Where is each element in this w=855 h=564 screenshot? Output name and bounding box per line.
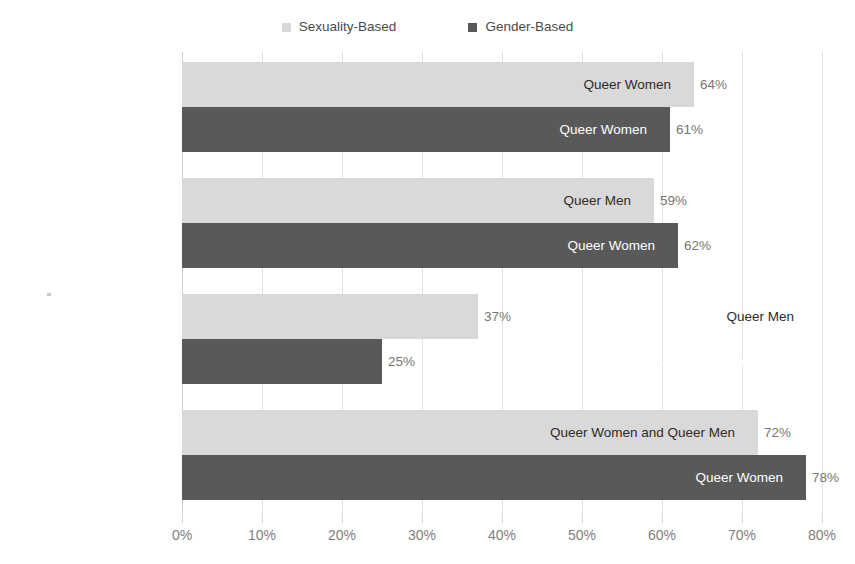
- x-tick-label: 10%: [248, 527, 276, 543]
- bar-row-any-dhv-gender: Queer Women 78%: [182, 455, 822, 500]
- legend-swatch-icon: [282, 23, 291, 32]
- x-tick-label: 70%: [728, 527, 756, 543]
- bar-point-label: Queer Women: [567, 223, 659, 268]
- bar-sexuality-violence[interactable]: [182, 294, 478, 339]
- x-tick-label: 30%: [408, 527, 436, 543]
- bar-value-label: 61%: [670, 107, 703, 152]
- bar-point-label: Queer Men: [563, 178, 635, 223]
- chart-legend: Sexuality-Based Gender-Based: [0, 14, 855, 40]
- x-tick-label: 20%: [328, 527, 356, 543]
- legend-label-gender-based: Gender-Based: [485, 20, 573, 34]
- legend-label-sexuality-based: Sexuality-Based: [299, 20, 397, 34]
- bar-point-label: Queer Men: [726, 294, 798, 339]
- bar-value-label: 72%: [758, 410, 791, 455]
- gridline-80: [822, 52, 823, 514]
- x-tick-mark: [822, 514, 823, 523]
- bar-chart: Sexuality-Based Gender-Based Discriminat…: [0, 0, 855, 564]
- bar-row-discrimination-gender: Queer Women 61%: [182, 107, 822, 152]
- x-tick-mark: [182, 514, 183, 523]
- bar-group-violence: Violence Queer Men 37% Bisexual Women an…: [182, 294, 822, 384]
- stray-artifact-mark: [47, 293, 51, 296]
- bar-gender-violence[interactable]: [182, 339, 382, 384]
- bar-value-label: 59%: [654, 178, 687, 223]
- bar-group-discrimination: Discrimination Queer Women 64% Queer Wom…: [182, 62, 822, 152]
- x-tick-label: 0%: [172, 527, 192, 543]
- x-tick-mark: [342, 514, 343, 523]
- bar-group-harassment: Harassment Queer Men 59% Queer Women 62%: [182, 178, 822, 268]
- bar-value-label: 62%: [678, 223, 711, 268]
- bar-value-label: 78%: [806, 455, 839, 500]
- bar-row-harassment-gender: Queer Women 62%: [182, 223, 822, 268]
- x-tick-label: 50%: [568, 527, 596, 543]
- x-tick-mark: [422, 514, 423, 523]
- bar-row-discrimination-sexuality: Queer Women 64%: [182, 62, 822, 107]
- legend-entry-gender-based[interactable]: Gender-Based: [468, 20, 573, 34]
- bar-point-label: Queer Women and Queer Men: [550, 410, 739, 455]
- x-tick-mark: [742, 514, 743, 523]
- x-tick-label: 80%: [808, 527, 836, 543]
- x-tick-label: 40%: [488, 527, 516, 543]
- bar-point-label: Queer Women: [695, 455, 787, 500]
- plot-area: Discrimination Queer Women 64% Queer Wom…: [182, 52, 822, 514]
- bar-row-violence-gender: Bisexual Women and Non-binary 25%: [182, 339, 822, 384]
- legend-entry-sexuality-based[interactable]: Sexuality-Based: [282, 20, 397, 34]
- bar-row-harassment-sexuality: Queer Men 59%: [182, 178, 822, 223]
- bar-point-label: Queer Women: [583, 62, 675, 107]
- bar-row-any-dhv-sexuality: Queer Women and Queer Men 72%: [182, 410, 822, 455]
- x-tick-mark: [262, 514, 263, 523]
- bar-value-label: 64%: [694, 62, 727, 107]
- x-tick-mark: [662, 514, 663, 523]
- x-tick-label: 60%: [648, 527, 676, 543]
- x-axis: 0% 10% 20% 30% 40% 50% 60% 70% 80%: [182, 514, 822, 554]
- bar-point-label: Bisexual Women and Non-binary: [621, 339, 822, 384]
- bar-value-label: 25%: [382, 339, 415, 384]
- bar-value-label: 37%: [478, 294, 511, 339]
- bar-row-violence-sexuality: Queer Men 37%: [182, 294, 822, 339]
- bar-group-any-dhv-experience: Any DHV Experience Queer Women and Queer…: [182, 410, 822, 500]
- x-tick-mark: [502, 514, 503, 523]
- x-tick-mark: [582, 514, 583, 523]
- bar-point-label: Queer Women: [559, 107, 651, 152]
- legend-swatch-icon: [468, 23, 477, 32]
